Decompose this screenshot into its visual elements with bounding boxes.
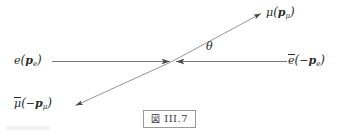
minus-sign: − — [26, 97, 35, 110]
label-outgoing-antimuon: μ(−pμ) — [14, 97, 52, 111]
outgoing-antimuon-line — [76, 62, 173, 106]
close-paren: ) — [320, 53, 325, 67]
label-incoming-positron: e(−pe) — [288, 54, 325, 68]
figure-number: III.7 — [161, 113, 189, 124]
positron-momentum-vector: p — [308, 54, 316, 67]
muon-momentum-vector: p — [278, 6, 286, 19]
label-outgoing-muon: μ(pμ) — [266, 6, 295, 20]
page-artifact-smudge — [6, 126, 50, 130]
close-paren: ) — [37, 53, 42, 67]
electron-momentum-vector: p — [25, 54, 33, 67]
feynman-scattering-diagram: μ(pμ) e(pe) e(−pe) μ(−pμ) θ 図 III.7 — [0, 0, 346, 139]
label-incoming-electron: e(pe) — [14, 54, 42, 68]
label-scattering-angle: θ — [206, 41, 213, 52]
close-paren: ) — [47, 96, 52, 110]
figure-marker-glyph: 図 — [151, 114, 161, 124]
figure-caption-box: 図 III.7 — [143, 110, 196, 128]
outgoing-muon-line — [172, 14, 261, 62]
close-paren: ) — [290, 5, 295, 19]
antimuon-momentum-vector: p — [35, 97, 43, 110]
